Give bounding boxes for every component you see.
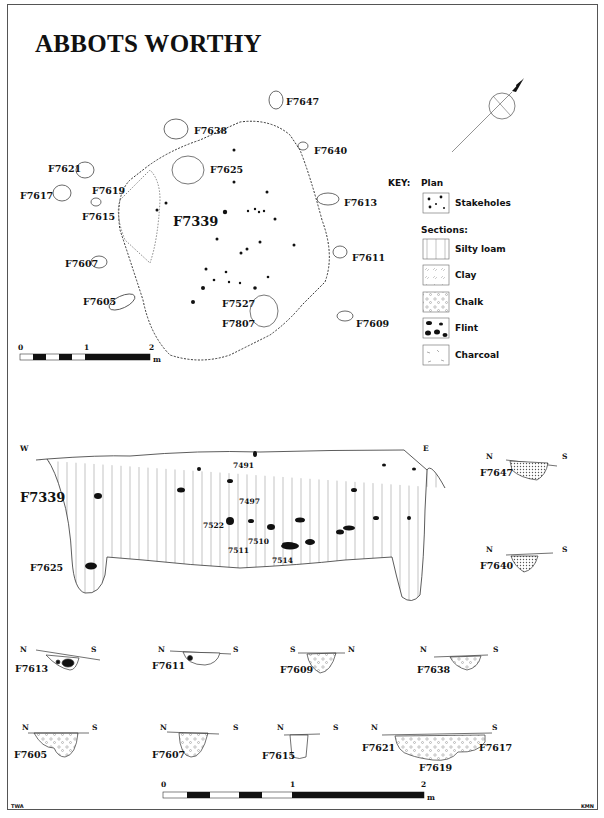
key-label-charcoal: Charcoal (455, 350, 499, 360)
section-scale-unit: m (427, 793, 435, 802)
context-7497: 7497 (239, 497, 260, 506)
key-swatches (423, 193, 449, 365)
section-east-label: E (423, 444, 429, 453)
north-arrow-icon (452, 78, 524, 152)
section-label-f7640: F7640 (480, 560, 513, 571)
f7605-orient-right: S (92, 723, 97, 732)
label-f7640: F7640 (314, 145, 347, 156)
f7621-group-orient-right: S (492, 723, 497, 732)
key-heading: KEY: (388, 178, 410, 188)
label-f7611: F7611 (352, 252, 385, 263)
f7607-orient-right: S (233, 723, 238, 732)
f7647-orient-left: N (486, 452, 493, 461)
f7638-orient-right: S (493, 645, 498, 654)
credit-right: KMN (581, 803, 594, 809)
context-7491: 7491 (233, 461, 254, 470)
main-section-f7339 (36, 450, 445, 601)
label-f7647: F7647 (286, 96, 319, 107)
section-label-f7619: F7619 (419, 762, 452, 773)
label-f7617: F7617 (20, 190, 53, 201)
section-label-f7613: F7613 (15, 663, 48, 674)
label-f7807: F7807 (222, 318, 255, 329)
plan-scale-bar (20, 354, 150, 360)
label-f7615: F7615 (82, 211, 115, 222)
label-f7607: F7607 (65, 258, 98, 269)
context-7511: 7511 (228, 546, 249, 555)
section-label-f7615: F7615 (262, 750, 295, 761)
label-f7605: F7605 (83, 296, 116, 307)
key-sections-heading: Sections: (421, 225, 468, 235)
label-f7619: F7619 (92, 185, 125, 196)
plan-scale-tick-0: 0 (18, 343, 23, 352)
label-f7609: F7609 (356, 318, 389, 329)
f7615-orient-left: N (277, 723, 284, 732)
f7640-orient-right: S (562, 545, 567, 554)
section-label-f7609: F7609 (280, 664, 313, 675)
f7611-orient-right: S (233, 645, 238, 654)
key-label-stakeholes: Stakeholes (455, 198, 511, 208)
label-f7527: F7527 (222, 298, 255, 309)
context-7514: 7514 (272, 556, 293, 565)
context-7522: 7522 (203, 521, 224, 530)
f7615-orient-right: S (333, 723, 338, 732)
section-label-f7605: F7605 (14, 749, 47, 760)
key-label-silty-loam: Silty loam (455, 244, 506, 254)
plan-scale-tick-1: 1 (84, 343, 89, 352)
f7647-orient-right: S (562, 452, 567, 461)
f7609-orient-right: N (348, 645, 355, 654)
drawing-canvas (0, 0, 604, 818)
key-plan-heading: Plan (421, 178, 443, 188)
f7605-orient-left: N (22, 723, 29, 732)
label-f7613: F7613 (344, 197, 377, 208)
f7609-orient-left: S (290, 645, 295, 654)
section-label-f7625: F7625 (30, 562, 63, 573)
section-label-f7638: F7638 (417, 664, 450, 675)
label-f7638: F7638 (194, 125, 227, 136)
f7638-orient-left: N (420, 645, 427, 654)
plan-scale-tick-2: 2 (149, 343, 154, 352)
section-label-f7647: F7647 (480, 467, 513, 478)
section-label-f7621: F7621 (362, 742, 395, 753)
key-label-flint: Flint (455, 323, 478, 333)
section-label-f7339: F7339 (20, 490, 65, 505)
f7621-group-orient-left: N (371, 723, 378, 732)
plan-scale-unit: m (153, 355, 161, 364)
key-label-clay: Clay (455, 270, 476, 280)
context-7510: 7510 (248, 537, 269, 546)
f7640-orient-left: N (486, 545, 493, 554)
section-scale-tick-2: 2 (421, 780, 426, 789)
section-label-f7607: F7607 (152, 749, 185, 760)
f7613-orient-right: S (91, 645, 96, 654)
section-label-f7617: F7617 (479, 742, 512, 753)
f7607-orient-left: N (160, 723, 167, 732)
section-label-f7611: F7611 (152, 660, 185, 671)
credit-left: TWA (11, 803, 24, 809)
section-scale-tick-0: 0 (161, 780, 166, 789)
section-west-label: W (20, 444, 28, 453)
label-f7339-plan: F7339 (173, 214, 218, 229)
f7611-orient-left: N (158, 645, 165, 654)
label-f7625: F7625 (210, 164, 243, 175)
f7613-orient-left: N (20, 645, 27, 654)
section-scale-tick-1: 1 (290, 780, 295, 789)
section-scale-bar (163, 792, 424, 798)
key-label-chalk: Chalk (455, 297, 483, 307)
label-f7621: F7621 (48, 163, 81, 174)
